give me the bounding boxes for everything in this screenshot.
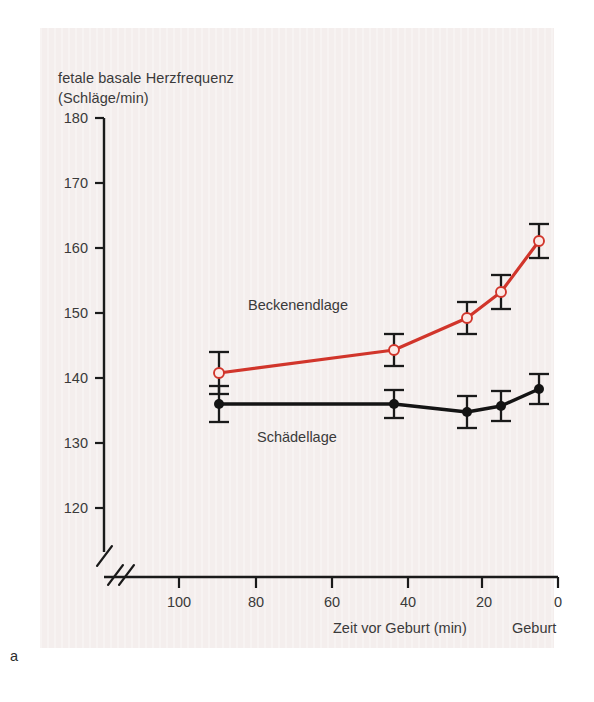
chart-plot-area [0, 0, 594, 702]
axis-break-marks [97, 546, 134, 585]
markers-beckenendlage [214, 236, 544, 378]
data-point-cephalic-90min [214, 399, 224, 409]
data-point-breech-15min [496, 287, 506, 297]
data-point-breech-5min [534, 236, 544, 246]
error-bars-schaedellage [209, 374, 549, 428]
y-axis-ticks [95, 118, 104, 508]
data-point-cephalic-5min [534, 384, 544, 394]
data-point-cephalic-15min [496, 401, 506, 411]
panel-letter: a [10, 648, 18, 664]
data-point-breech-24min [462, 313, 472, 323]
markers-schaedellage [214, 384, 544, 417]
x-axis-ticks [179, 577, 558, 588]
series-line-beckenendlage [219, 241, 539, 373]
series-line-schaedellage [219, 389, 539, 412]
data-point-cephalic-43min [389, 399, 399, 409]
data-point-breech-90min [214, 368, 224, 378]
data-point-breech-43min [389, 345, 399, 355]
data-point-cephalic-24min [462, 407, 472, 417]
